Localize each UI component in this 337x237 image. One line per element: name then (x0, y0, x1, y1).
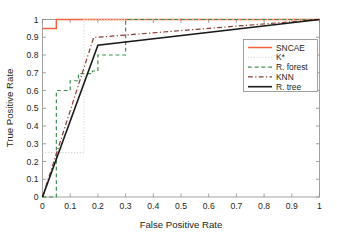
y-tick-label: 0.8 (27, 50, 39, 60)
y-tick-label: 0.5 (27, 103, 39, 113)
x-tick-label: 0.5 (175, 201, 187, 211)
x-tick-label: 0.2 (92, 201, 104, 211)
legend-label-sncae: SNCAE (276, 43, 305, 53)
y-tick-label: 0 (34, 192, 39, 202)
x-tick-label: 0.3 (120, 201, 132, 211)
legend-label-r-tree: R. tree (276, 82, 301, 92)
x-tick-label: 0.8 (258, 201, 270, 211)
x-axis-ticklabels: 00.10.20.30.40.50.60.70.80.91 (40, 201, 322, 211)
x-tick-label: 0.7 (230, 201, 242, 211)
x-tick-label: 0.4 (147, 201, 159, 211)
legend-label-k: K* (276, 52, 286, 62)
y-tick-label: 1 (34, 15, 39, 25)
legend-label-r-forest: R. forest (276, 62, 308, 72)
y-axis-ticklabels: 00.10.20.30.40.50.60.70.80.91 (27, 15, 39, 203)
chart-legend: SNCAEK*R. forestKNNR. tree (244, 40, 318, 92)
y-axis-title: True Positive Rate (4, 69, 15, 148)
roc-plot: 00.10.20.30.40.50.60.70.80.91 00.10.20.3… (0, 0, 337, 237)
x-tick-label: 1 (317, 201, 322, 211)
x-tick-label: 0.1 (64, 201, 76, 211)
y-tick-label: 0.2 (27, 157, 39, 167)
x-axis-title: False Positive Rate (140, 219, 223, 230)
y-tick-label: 0.6 (27, 86, 39, 96)
y-tick-label: 0.4 (27, 121, 39, 131)
roc-chart-figure: 00.10.20.30.40.50.60.70.80.91 00.10.20.3… (0, 0, 337, 237)
y-tick-label: 0.9 (27, 32, 39, 42)
x-tick-label: 0 (40, 201, 45, 211)
y-tick-label: 0.1 (27, 174, 39, 184)
y-tick-label: 0.3 (27, 139, 39, 149)
y-tick-label: 0.7 (27, 68, 39, 78)
x-tick-label: 0.9 (286, 201, 298, 211)
legend-label-knn: KNN (276, 72, 294, 82)
x-tick-label: 0.6 (203, 201, 215, 211)
